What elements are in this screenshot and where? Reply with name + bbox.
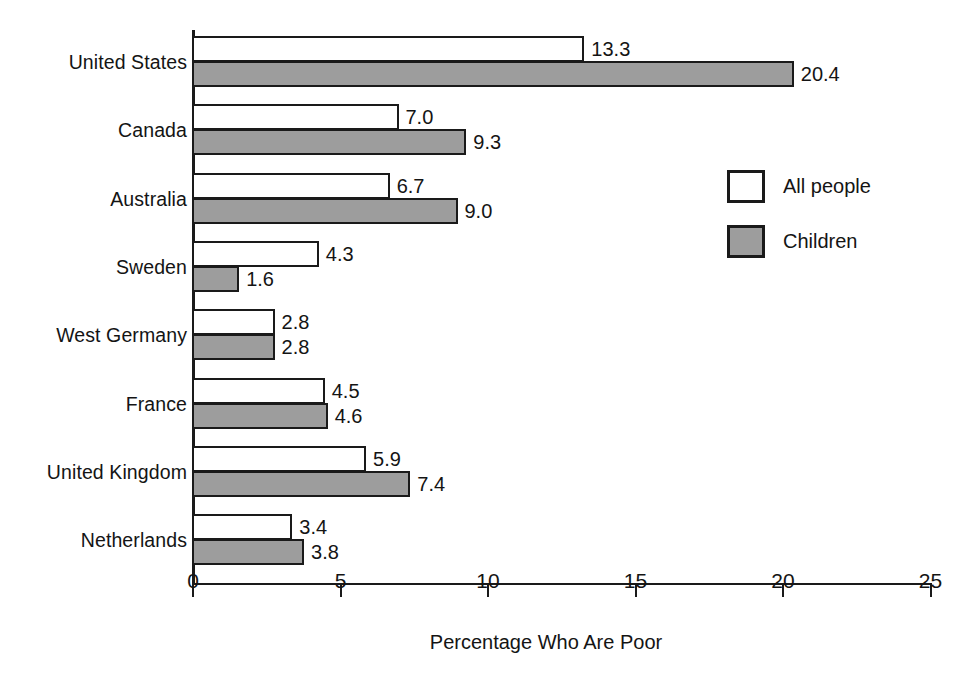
bar-chart: United StatesCanadaAustraliaSwedenWest G… bbox=[0, 0, 972, 681]
category-label: Canada bbox=[118, 121, 187, 141]
bar-value-label: 7.4 bbox=[417, 471, 445, 497]
bar-value-label: 13.3 bbox=[591, 36, 630, 62]
category-label: United Kingdom bbox=[47, 463, 187, 483]
bar-value-label: 2.8 bbox=[282, 309, 310, 335]
bar-children bbox=[192, 198, 458, 224]
bar-value-label: 2.8 bbox=[282, 334, 310, 360]
category-label: United States bbox=[69, 53, 187, 73]
bar-value-label: 5.9 bbox=[373, 446, 401, 472]
bar-value-label: 7.0 bbox=[406, 104, 434, 130]
bar-all-people bbox=[192, 446, 366, 472]
bar-children bbox=[192, 471, 410, 497]
bar-value-label: 3.8 bbox=[311, 539, 339, 565]
bar-all-people bbox=[192, 241, 319, 267]
bar-children bbox=[192, 403, 328, 429]
category-label: France bbox=[126, 395, 187, 415]
x-tick-label: 25 bbox=[919, 570, 942, 591]
legend-swatch-children bbox=[727, 225, 765, 258]
bar-all-people bbox=[192, 104, 399, 130]
bar-value-label: 9.0 bbox=[465, 198, 493, 224]
x-tick-label: 0 bbox=[187, 570, 199, 591]
x-axis-line bbox=[192, 583, 931, 585]
category-label: West Germany bbox=[56, 326, 187, 346]
bar-children bbox=[192, 61, 794, 87]
bar-value-label: 3.4 bbox=[299, 514, 327, 540]
category-label: Netherlands bbox=[81, 531, 187, 551]
legend-label-all-people: All people bbox=[783, 173, 871, 199]
bar-value-label: 4.5 bbox=[332, 378, 360, 404]
legend-swatch-all-people bbox=[727, 170, 765, 203]
bar-all-people bbox=[192, 309, 275, 335]
bar-value-label: 20.4 bbox=[801, 61, 840, 87]
bar-value-label: 4.3 bbox=[326, 241, 354, 267]
category-label: Sweden bbox=[116, 258, 187, 278]
bar-value-label: 9.3 bbox=[473, 129, 501, 155]
bar-children bbox=[192, 129, 466, 155]
bar-all-people bbox=[192, 36, 584, 62]
bar-all-people bbox=[192, 514, 292, 540]
plot-area: 13.320.47.09.36.79.04.31.62.82.84.54.65.… bbox=[192, 30, 930, 583]
bar-all-people bbox=[192, 378, 325, 404]
legend-label-children: Children bbox=[783, 228, 857, 254]
x-tick-label: 15 bbox=[624, 570, 647, 591]
bar-children bbox=[192, 266, 239, 292]
bar-children bbox=[192, 334, 275, 360]
bar-value-label: 4.6 bbox=[335, 403, 363, 429]
bar-value-label: 6.7 bbox=[397, 173, 425, 199]
x-tick-label: 5 bbox=[335, 570, 347, 591]
x-tick-label: 10 bbox=[476, 570, 499, 591]
x-tick-label: 20 bbox=[771, 570, 794, 591]
bar-value-label: 1.6 bbox=[246, 266, 274, 292]
bar-children bbox=[192, 539, 304, 565]
x-axis-title: Percentage Who Are Poor bbox=[0, 632, 972, 652]
category-label: Australia bbox=[110, 190, 187, 210]
bar-all-people bbox=[192, 173, 390, 199]
